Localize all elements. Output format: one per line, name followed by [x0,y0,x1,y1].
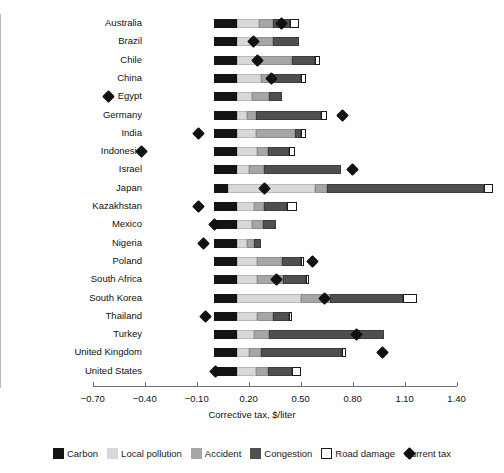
bar-segment-road-damage [306,275,309,284]
legend-item-current-tax[interactable]: Current tax [404,448,451,459]
bar-segment-carbon [214,56,237,65]
bar-segment-carbon [214,239,237,248]
table-row: Germany [0,106,504,124]
bar-segment-road-damage [290,19,299,28]
stacked-bar [0,14,504,32]
x-axis-tick [145,382,146,386]
square-swatch-icon [250,448,261,459]
x-axis-tick [457,382,458,386]
square-swatch-icon [191,448,202,459]
bar-segment-accident [252,92,269,101]
current-tax-marker [197,237,210,250]
corrective-tax-chart: AustraliaBrazilChileChinaEgyptGermanyInd… [0,0,504,473]
bar-segment-carbon [214,165,237,174]
stacked-bar [0,270,504,288]
bar-segment-road-damage [287,202,297,211]
stacked-bar [0,325,504,343]
bar-segment-accident [257,147,267,156]
table-row: Japan [0,179,504,197]
bar-segment-road-damage [403,294,417,303]
bar-segment-local-pollution [237,294,301,303]
bar-segment-carbon [214,257,237,266]
bar-segment-accident [259,19,273,28]
bar-segment-carbon [214,92,237,101]
bar-segment-carbon [214,74,237,83]
x-axis-tick [353,382,354,386]
legend-label: Local pollution [121,448,182,459]
chart-legend: CarbonLocal pollutionAccidentCongestionR… [0,444,504,462]
stacked-bar [0,215,504,233]
bar-segment-accident [249,165,265,174]
current-tax-marker [346,164,359,177]
stacked-bar [0,252,504,270]
legend-label: Accident [205,448,241,459]
table-row: Indonesia [0,142,504,160]
legend-label: Congestion [264,448,312,459]
bar-segment-local-pollution [237,312,258,321]
bar-segment-congestion [330,294,403,303]
bar-segment-accident [256,367,268,376]
table-row: South Africa [0,270,504,288]
bar-segment-congestion [268,147,289,156]
x-axis-tick-label: −0.10 [174,393,220,404]
legend-item-carbon[interactable]: Carbon [53,448,98,459]
bar-segment-congestion [263,220,277,229]
bar-segment-congestion [261,348,342,357]
x-axis-tick-label: 1.40 [434,393,480,404]
x-axis-tick-label: −0.70 [70,393,116,404]
current-tax-marker [376,347,389,360]
bar-segment-local-pollution [237,367,256,376]
square-swatch-icon [321,448,332,459]
bar-segment-carbon [214,275,237,284]
bar-segment-local-pollution [237,220,253,229]
bar-segment-accident [257,257,281,266]
stacked-bar [0,343,504,361]
x-axis-tick [405,382,406,386]
legend-item-road-damage[interactable]: Road damage [321,448,395,459]
table-row: India [0,124,504,142]
bar-segment-road-damage [484,184,493,193]
x-axis-tick-label: 0.80 [330,393,376,404]
current-tax-marker [192,127,205,140]
table-row: Poland [0,252,504,270]
table-row: United Kingdom [0,343,504,361]
stacked-bar [0,307,504,325]
bar-segment-local-pollution [237,165,249,174]
bar-segment-congestion [283,275,306,284]
bar-segment-road-damage [292,367,301,376]
bar-segment-congestion [268,367,292,376]
stacked-bar [0,160,504,178]
x-axis-tick-label: 0.50 [278,393,324,404]
bar-segment-carbon [214,147,237,156]
bar-segment-carbon [214,184,228,193]
x-axis-tick [93,382,94,386]
bar-segment-local-pollution [237,239,247,248]
bar-segment-local-pollution [237,19,260,28]
table-row: Thailand [0,307,504,325]
bar-segment-road-damage [321,111,326,120]
bar-segment-local-pollution [237,111,247,120]
bar-segment-local-pollution [237,147,258,156]
bar-segment-carbon [214,202,237,211]
bar-segment-congestion [273,37,299,46]
stacked-bar [0,106,504,124]
x-axis-tick-label: −0.40 [122,393,168,404]
bar-segment-accident [257,312,273,321]
current-tax-marker [135,145,148,158]
table-row: South Korea [0,289,504,307]
table-row: Brazil [0,32,504,50]
x-axis-tick-label: 0.20 [226,393,272,404]
legend-item-accident[interactable]: Accident [191,448,241,459]
bar-segment-accident [256,129,296,138]
stacked-bar [0,69,504,87]
legend-item-congestion[interactable]: Congestion [250,448,312,459]
stacked-bar [0,289,504,307]
table-row: Israel [0,160,504,178]
legend-label: Carbon [67,448,98,459]
stacked-bar [0,124,504,142]
legend-item-local-pollution[interactable]: Local pollution [107,448,182,459]
bar-segment-road-damage [301,74,306,83]
stacked-bar [0,197,504,215]
bar-segment-congestion [269,330,383,339]
current-tax-marker [102,90,115,103]
